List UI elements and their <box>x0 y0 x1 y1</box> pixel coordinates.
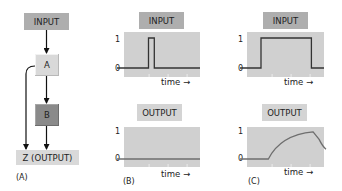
plot-traces <box>0 0 342 191</box>
trace-c-input <box>240 38 324 68</box>
trace-c-output <box>240 132 326 159</box>
trace-b-input <box>117 38 200 68</box>
